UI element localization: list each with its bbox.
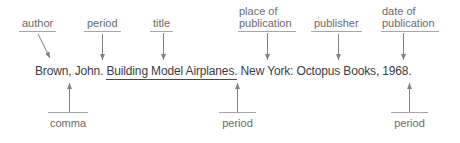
citation-line: Brown, John. Building Model Airplanes. N… [35, 64, 412, 78]
label-comma: comma [48, 112, 88, 129]
citation-rest-segment: New York: Octopus Books, 1968. [237, 64, 411, 78]
citation-author-segment: Brown, John. [35, 64, 106, 78]
citation-diagram: author period title place of publication… [0, 0, 460, 143]
label-period-after-title: period [219, 112, 256, 129]
label-period-after-author: period [84, 17, 121, 32]
citation-title-segment: Building Model Airplanes. [106, 64, 237, 80]
label-place-of-publication: place of publication [238, 5, 296, 32]
label-publisher: publisher [311, 17, 362, 32]
label-date-of-publication: date of publication [381, 5, 439, 32]
label-period-after-date: period [391, 112, 428, 129]
label-author: author [19, 17, 56, 32]
label-title: title [150, 17, 173, 32]
author-arrow [38, 34, 50, 58]
